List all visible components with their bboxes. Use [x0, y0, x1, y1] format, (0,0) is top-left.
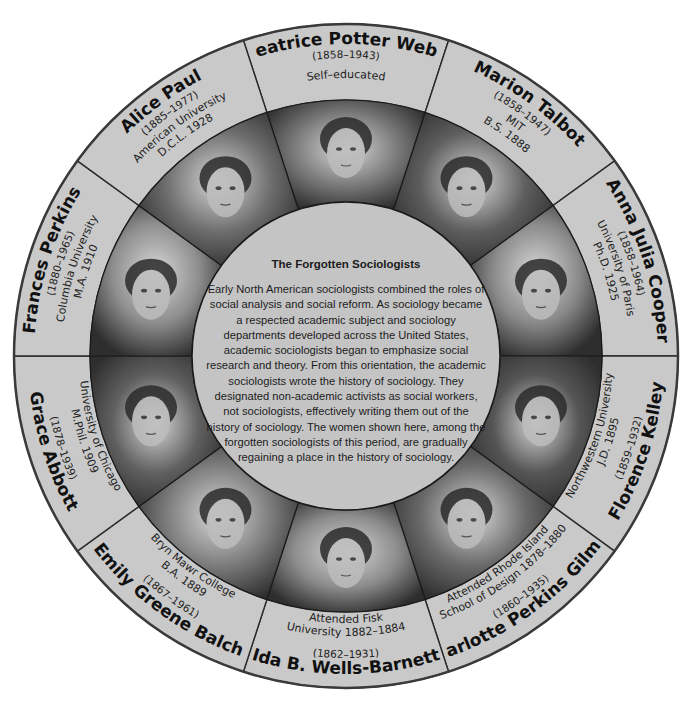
center-text-block: The Forgotten Sociologists Early North A… [206, 258, 486, 466]
center-title: The Forgotten Sociologists [206, 258, 486, 270]
center-body: Early North American sociologists combin… [206, 282, 486, 466]
sociologist-dates: (1858–1943) [312, 48, 381, 62]
sociologist-dates: (1862–1931) [312, 646, 379, 660]
